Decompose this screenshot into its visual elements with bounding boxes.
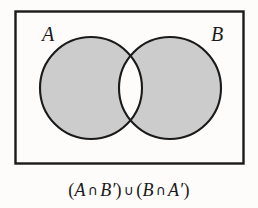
- caption-set-b-complement: B: [100, 180, 111, 201]
- venn-diagram-svg: A B: [0, 0, 258, 172]
- union-icon: ∪: [122, 182, 136, 198]
- caption-close-paren-2: ): [183, 180, 189, 201]
- caption-set-a-complement: A: [168, 180, 179, 201]
- intersection-icon-2: ∩: [154, 182, 168, 198]
- venn-diagram-canvas: A B: [0, 0, 258, 172]
- venn-diagram-figure: A B (A∩B′)∪(B∩A′): [0, 0, 258, 208]
- caption-set-b: B: [142, 180, 153, 201]
- set-label-b: B: [211, 23, 223, 45]
- caption-set-a: A: [75, 180, 86, 201]
- intersection-icon-1: ∩: [86, 182, 100, 198]
- set-label-a: A: [40, 23, 55, 45]
- figure-caption: (A∩B′)∪(B∩A′): [0, 172, 258, 208]
